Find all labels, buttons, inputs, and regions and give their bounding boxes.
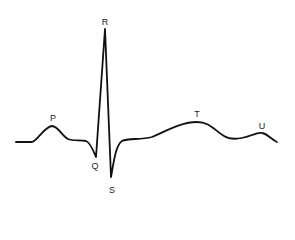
label-t: T	[194, 110, 200, 119]
label-p: P	[50, 114, 56, 123]
label-u: U	[259, 122, 266, 131]
ecg-waveform	[0, 0, 295, 240]
ecg-trace	[16, 29, 277, 177]
label-s: S	[109, 186, 115, 195]
label-q: Q	[91, 162, 98, 171]
label-r: R	[102, 18, 109, 27]
ecg-diagram: P Q R S T U	[0, 0, 295, 240]
